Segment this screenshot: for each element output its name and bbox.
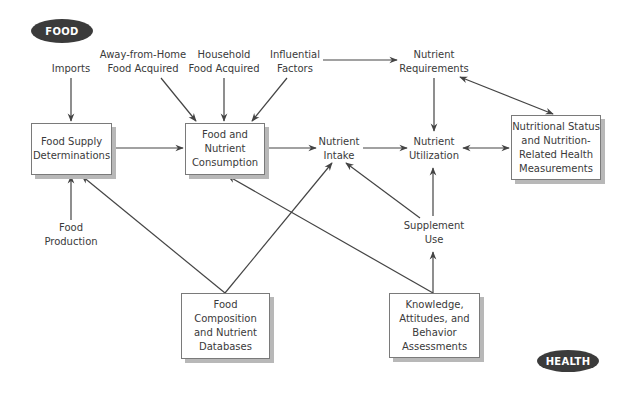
box-consumption-label: Food and Nutrient Consumption — [192, 128, 258, 170]
box-food-supply: Food Supply Determinations — [31, 123, 112, 175]
label-food-production: Food Production — [44, 221, 97, 249]
food-tag-label: FOOD — [45, 26, 78, 37]
box-consumption: Food and Nutrient Consumption — [185, 123, 265, 175]
label-nutrient-requirements: Nutrient Requirements — [399, 48, 469, 76]
box-nutritional-status: Nutritional Status and Nutrition- Relate… — [511, 115, 601, 180]
arrow-composition-to-supply — [82, 176, 225, 293]
label-imports: Imports — [52, 62, 90, 76]
label-nutrient-intake: Nutrient Intake — [318, 135, 359, 163]
label-supplement-use: Supplement Use — [404, 219, 464, 247]
box-knowledge-label: Knowledge, Attitudes, and Behavior Asses… — [399, 298, 469, 354]
health-tag-label: HEALTH — [546, 356, 591, 367]
box-nutritional-status-label: Nutritional Status and Nutrition- Relate… — [512, 120, 600, 176]
food-tag: FOOD — [31, 19, 93, 43]
label-influential-factors: Influential Factors — [270, 48, 320, 76]
box-food-composition-label: Food Composition and Nutrient Databases — [194, 298, 257, 354]
box-food-composition: Food Composition and Nutrient Databases — [181, 293, 270, 359]
label-away-from-home: Away-from-Home Food Acquired — [100, 48, 187, 76]
arrow-away-to-consumption — [161, 78, 196, 121]
arrow-requirements-status — [460, 77, 553, 114]
arrow-knowledge-to-consumption — [228, 176, 433, 293]
box-food-supply-label: Food Supply Determinations — [33, 135, 110, 163]
label-nutrient-utilization: Nutrient Utilization — [409, 135, 459, 163]
arrow-influential-to-consumption — [252, 78, 287, 121]
box-knowledge: Knowledge, Attitudes, and Behavior Asses… — [389, 293, 480, 358]
label-household: Household Food Acquired — [188, 48, 259, 76]
arrow-composition-to-intake — [225, 163, 332, 293]
health-tag: HEALTH — [537, 350, 599, 372]
arrow-supplement-to-intake — [346, 163, 420, 218]
